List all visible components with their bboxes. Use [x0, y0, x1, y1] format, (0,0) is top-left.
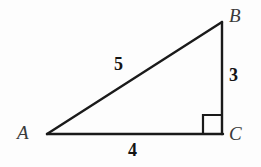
side-length-label-bc: 3 — [229, 66, 238, 84]
side-length-label-ac: 4 — [128, 141, 137, 159]
vertex-label-b: B — [229, 6, 241, 25]
vertex-label-a: A — [17, 123, 29, 142]
triangle-side-hypotenuse-ab — [47, 22, 222, 134]
vertex-label-c: C — [229, 124, 242, 143]
geometry-figure: A B C 5 3 4 — [0, 0, 261, 167]
right-angle-marker-icon — [203, 115, 222, 134]
side-length-label-hypotenuse: 5 — [114, 55, 123, 73]
